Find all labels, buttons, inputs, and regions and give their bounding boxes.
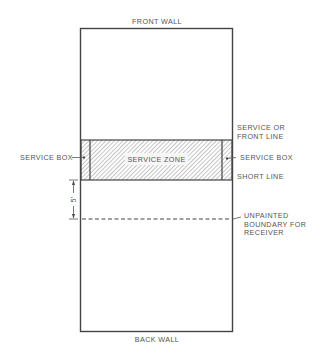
service-zone-label: SERVICE ZONE xyxy=(127,155,185,164)
short-line-label: SHORT LINE xyxy=(237,172,284,181)
boundary-label-3: RECEIVER xyxy=(244,228,284,237)
racquetball-court-diagram: SERVICE ZONE FRONT WALL BACK WALL SERVIC… xyxy=(0,0,321,360)
boundary-leader xyxy=(233,217,241,219)
dimension-arrow-down-icon xyxy=(72,214,75,219)
back-wall-label: BACK WALL xyxy=(135,335,179,344)
right-leader-dot xyxy=(226,158,228,160)
front-wall-label: FRONT WALL xyxy=(132,17,182,26)
service-line-label-2: FRONT LINE xyxy=(237,132,284,141)
dimension-label: 5' xyxy=(69,196,78,202)
right-service-box-label: SERVICE BOX xyxy=(240,153,293,162)
left-leader-dot xyxy=(83,157,85,159)
left-service-box-label: SERVICE BOX xyxy=(20,153,73,162)
dimension-arrow-up-icon xyxy=(72,181,75,186)
